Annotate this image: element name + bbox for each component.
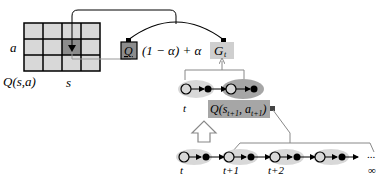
q-table-label: Q(s,a) <box>3 74 36 89</box>
bootstrap-mid: , a <box>239 102 251 116</box>
mid-chain <box>178 79 264 99</box>
action-axis-label: a <box>10 40 17 55</box>
bottom-chain-bracket <box>232 143 374 152</box>
update-formula-text: (1 − α) + α <box>142 43 203 58</box>
mid-chain-time-label: t <box>183 102 187 114</box>
ellipsis: ... <box>367 148 376 160</box>
hollow-up-arrow-icon <box>192 121 216 142</box>
q-box-label: Q <box>124 44 133 58</box>
state-axis-label: s <box>66 75 71 90</box>
time-label-t2: t+2 <box>268 164 284 176</box>
bootstrap-q-text: Q(s <box>210 102 228 116</box>
time-label-t: t <box>180 164 184 176</box>
bootstrap-close: ) <box>262 102 267 116</box>
bootstrap-sub2: t+1 <box>251 109 263 118</box>
q-table-grid <box>24 23 100 71</box>
time-label-t1: t+1 <box>223 164 239 176</box>
bootstrap-sub1: t+1 <box>227 109 239 118</box>
return-label: G <box>214 43 224 58</box>
update-arc <box>128 22 224 40</box>
infinity-label: ∞ <box>368 164 376 176</box>
mid-chain-bracket <box>185 70 244 80</box>
td-diagram: a Q(s,a) s Q (1 − α) + α G t t Q(st+1, a… <box>0 0 383 179</box>
bottom-chain <box>176 149 358 165</box>
